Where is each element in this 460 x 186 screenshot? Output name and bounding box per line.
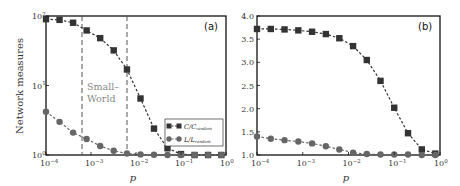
circle-marker [350, 149, 356, 155]
square-marker [295, 27, 301, 33]
panel-b-frame [257, 16, 440, 155]
circle-marker [323, 143, 329, 149]
circle-marker [43, 108, 49, 114]
small-world-label-line1: Small– [87, 81, 119, 92]
square-marker [281, 26, 287, 32]
square-marker [336, 35, 342, 41]
circle-marker [268, 136, 274, 142]
y-tick-label: 3.5 [241, 35, 254, 44]
x-tick-label: 10−4 [40, 158, 59, 169]
panel-a-x-axis-label: p [130, 172, 137, 183]
x-tick-label: 10−1 [175, 158, 193, 169]
legend-c-label: C/C [184, 123, 196, 131]
circle-marker [281, 137, 287, 143]
square-marker [56, 17, 62, 23]
square-marker [124, 66, 130, 72]
x-tick-label: 10−3 [297, 158, 316, 169]
circle-marker [295, 138, 301, 144]
square-marker [377, 78, 383, 84]
square-marker [268, 26, 274, 32]
x-tick-label: 10−3 [85, 158, 104, 169]
legend: C/Crandom L/Lrandom [165, 119, 223, 146]
x-tick-label: 10−2 [343, 158, 361, 169]
square-marker [70, 20, 76, 26]
circle-marker [83, 136, 89, 142]
panel-a: Small– World (a) C/Crandom L/Lrandom 10−… [14, 11, 234, 184]
circle-marker [111, 148, 117, 154]
y-tick-label: 1.5 [241, 128, 254, 137]
circle-marker [151, 151, 157, 157]
circle-marker [336, 146, 342, 152]
square-marker [323, 31, 329, 37]
circle-marker [164, 152, 170, 158]
panel-b-series [254, 26, 439, 158]
y-axis-label: Network measures [14, 38, 25, 134]
x-tick-label: 100 [220, 158, 234, 169]
square-marker [391, 105, 397, 111]
x-tick-label: 100 [434, 158, 448, 169]
circle-marker [377, 151, 383, 157]
figure: Small– World (a) C/Crandom L/Lrandom 10−… [0, 0, 460, 186]
circle-marker [124, 150, 130, 156]
square-marker [151, 125, 157, 131]
panel-b-label: (b) [418, 21, 432, 32]
circle-marker [218, 152, 224, 158]
square-marker [254, 26, 260, 32]
panel-b: (b) 10−410−310−210−11001.01.52.02.53.03.… [241, 12, 448, 183]
circle-marker [56, 119, 62, 125]
y-tick-label: 4.0 [241, 12, 254, 21]
circle-marker [309, 140, 315, 146]
square-marker [43, 16, 49, 22]
circle-marker [419, 152, 425, 158]
circle-marker [254, 133, 260, 139]
x-tick-label: 10−1 [388, 158, 406, 169]
circle-marker [432, 152, 438, 158]
y-tick-label: 101 [32, 80, 46, 91]
panel-a-label: (a) [204, 21, 218, 32]
square-marker [350, 43, 356, 49]
square-marker [419, 146, 425, 152]
y-tick-label: 3.0 [241, 58, 254, 67]
square-marker [111, 47, 117, 53]
legend-l-label: L/L [183, 136, 195, 144]
legend-circle-marker-icon [166, 136, 171, 141]
x-tick-label: 10−2 [130, 158, 148, 169]
square-marker [405, 130, 411, 136]
circle-marker [70, 129, 76, 135]
circle-marker [97, 143, 103, 149]
square-marker [364, 57, 370, 63]
y-tick-label: 1.0 [241, 151, 254, 160]
circle-marker [364, 151, 370, 157]
square-marker [83, 27, 89, 33]
y-tick-label: 2.5 [241, 82, 254, 91]
square-marker [309, 29, 315, 35]
square-marker [97, 35, 103, 41]
square-marker [137, 95, 143, 101]
panel-b-x-axis-label: p [343, 172, 350, 183]
legend-square-marker-icon [167, 124, 172, 129]
y-tick-label: 2.0 [241, 105, 254, 114]
circle-marker [205, 152, 211, 158]
small-world-label-line2: World [87, 93, 116, 104]
